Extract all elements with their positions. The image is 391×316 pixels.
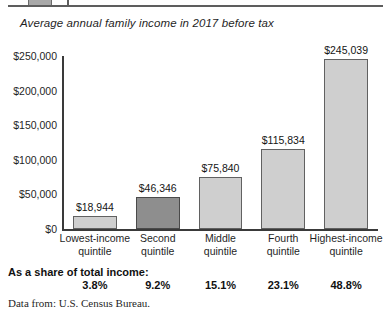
category-label-line: Highest-income — [303, 232, 388, 245]
share-label-line-2: total income: — [80, 266, 148, 278]
y-axis-tick-250000: $250,000 — [13, 50, 57, 62]
share-of-total-income-label: As a share of total income: — [8, 266, 149, 279]
bar-slot: $75,840 — [189, 56, 252, 229]
x-axis-category-labels: Lowest-incomequintileSecondquintileMiddl… — [64, 232, 380, 262]
bar-series: $18,944$46,346$75,840$115,834$245,039 — [64, 56, 379, 229]
share-percent-value: 48.8% — [315, 279, 378, 291]
category-label-line: quintile — [303, 245, 388, 258]
bar-slot: $245,039 — [315, 56, 378, 229]
cropped-horizontal-rule — [8, 5, 383, 7]
chart-title: Average annual family income in 2017 bef… — [20, 17, 274, 29]
bar-value-label: $115,834 — [262, 134, 305, 146]
bar-slot: $115,834 — [252, 56, 315, 229]
bar[interactable] — [324, 59, 368, 229]
bar-slot: $46,346 — [126, 56, 189, 229]
bar[interactable] — [73, 216, 117, 229]
bar-value-label: $245,039 — [324, 44, 368, 56]
share-of-total-income-values: 3.8%9.2%15.1%23.1%48.8% — [64, 279, 380, 293]
y-axis-tick-100000: $100,000 — [13, 154, 57, 166]
bar[interactable] — [199, 177, 243, 229]
bar[interactable] — [261, 149, 305, 229]
y-axis-tick-150000: $150,000 — [13, 119, 57, 131]
bar-value-label: $46,346 — [139, 182, 177, 194]
cropped-element-fragment — [0, 0, 391, 9]
share-percent-value: 3.8% — [64, 279, 127, 291]
bar[interactable] — [136, 197, 180, 229]
share-percent-value: 23.1% — [252, 279, 315, 291]
share-percent-value: 15.1% — [189, 279, 252, 291]
source-note: Data from: U.S. Census Bureau. — [8, 297, 150, 309]
share-label-line-1: As a share of — [8, 266, 77, 278]
x-axis-line — [62, 229, 378, 231]
bar-slot: $18,944 — [64, 56, 127, 229]
plot-area: $0$50,000$100,000$150,000$200,000$250,00… — [62, 56, 378, 229]
bar-value-label: $18,944 — [76, 201, 114, 213]
y-axis-tick-200000: $200,000 — [13, 85, 57, 97]
share-percent-value: 9.2% — [126, 279, 189, 291]
x-axis-category-label: Highest-incomequintile — [303, 232, 388, 257]
bar-value-label: $75,840 — [202, 162, 240, 174]
y-axis-tick-50000: $50,000 — [19, 188, 57, 200]
